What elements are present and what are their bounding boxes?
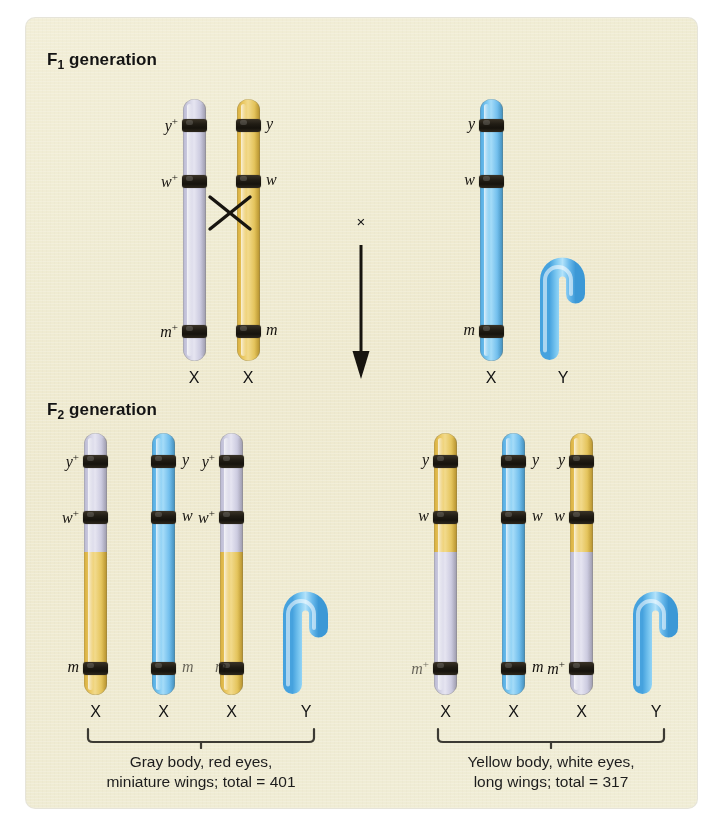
chromosome-body-top: [220, 433, 243, 552]
f2-right-chr3-label-m: m+: [547, 658, 565, 678]
chromosome-body: [183, 99, 206, 361]
f2-left-chr3-label-y: y+: [202, 451, 215, 471]
f2-right-chr1-type: X: [440, 703, 451, 721]
title-prefix: F: [47, 400, 57, 419]
allele-gene: y: [165, 117, 172, 134]
f1-female-chromosome-1[interactable]: [183, 99, 206, 361]
chromosome-band: [182, 119, 207, 132]
f2-right-chr1-label-m: m+: [411, 658, 429, 678]
chromosome-band: [219, 455, 244, 468]
f2-right-chr3-label-y: y: [558, 451, 565, 469]
allele-gene: y: [266, 115, 273, 132]
f2-left-chromosome-3[interactable]: [220, 433, 243, 695]
f1-generation-title: F1 generation: [47, 50, 157, 72]
title-prefix: F: [47, 50, 57, 69]
allele-gene: w: [418, 507, 429, 524]
chromosome-band: [236, 119, 261, 132]
chromosome-band: [151, 511, 176, 524]
allele-gene: w: [198, 509, 209, 526]
chromosome-body-top: [570, 433, 593, 552]
allele-gene: m: [215, 658, 227, 675]
allele-gene: w: [182, 507, 193, 524]
allele-gene: y: [532, 451, 539, 468]
f2-right-group-bracket: [436, 727, 666, 749]
f2-right-chromosome-1[interactable]: [434, 433, 457, 695]
allele-gene: y: [468, 115, 475, 132]
allele-superscript: +: [172, 115, 178, 127]
title-suffix: generation: [64, 50, 157, 69]
chromosome-segment: [220, 433, 243, 552]
f1-female-chr1-label-w: w+: [161, 171, 178, 191]
chromosome-band: [569, 662, 594, 675]
chromosome-band: [433, 455, 458, 468]
allele-superscript: +: [73, 451, 79, 463]
allele-gene: m: [532, 658, 544, 675]
chromosome-band: [83, 662, 108, 675]
f1-female-chr1-type: X: [189, 369, 200, 387]
chromosome-band: [479, 175, 504, 188]
f2-right-chromosome-y[interactable]: [633, 588, 679, 694]
f2-right-chromosome-3[interactable]: [570, 433, 593, 695]
chromosome-band: [236, 325, 261, 338]
f2-generation-title: F2 generation: [47, 400, 157, 422]
chromosome-band: [433, 662, 458, 675]
f2-right-chr3-label-w: w: [554, 507, 565, 525]
allele-superscript: +: [209, 451, 215, 463]
f2-left-chr2-label-y: y: [182, 451, 189, 469]
f2-left-chr3-label-w: w+: [198, 507, 215, 527]
allele-gene: y: [202, 453, 209, 470]
allele-superscript: +: [73, 507, 79, 519]
crossover-mark: [207, 193, 253, 233]
f2-left-chr1-type: X: [90, 703, 101, 721]
diagram-stage: F1 generationF2 generationy+w+m+ywmywmXX…: [26, 18, 697, 808]
f2-left-group-bracket: [86, 727, 316, 749]
figure-panel: F1 generationF2 generationy+w+m+ywmywmXX…: [26, 18, 697, 808]
f1-male-chrx-type: X: [486, 369, 497, 387]
chromosome-band: [479, 325, 504, 338]
f2-left-chr1-label-y: y+: [66, 451, 79, 471]
chromosome-segment: [570, 433, 593, 552]
allele-gene: m: [160, 323, 172, 340]
f2-left-group-caption: Gray body, red eyes, miniature wings; to…: [56, 752, 346, 793]
chromosome-band: [219, 511, 244, 524]
chromosome-band: [501, 662, 526, 675]
chromosome-band: [182, 175, 207, 188]
title-suffix: generation: [64, 400, 157, 419]
f2-right-group-caption: Yellow body, white eyes, long wings; tot…: [406, 752, 696, 793]
f2-right-chr1-label-w: w: [418, 507, 429, 525]
f2-left-chromosome-1[interactable]: [84, 433, 107, 695]
f2-left-chr1-label-m: m: [67, 658, 79, 676]
f1-female-chr2-label-m: m: [266, 321, 278, 339]
f2-left-chr2-label-w: w: [182, 507, 193, 525]
f2-right-chry-type: Y: [651, 703, 662, 721]
chromosome-band: [433, 511, 458, 524]
chromosome-band: [83, 511, 108, 524]
f1-male-chromosome-x[interactable]: [480, 99, 503, 361]
f2-left-chry-type: Y: [301, 703, 312, 721]
chromosome-band: [569, 511, 594, 524]
allele-superscript: +: [423, 658, 429, 670]
allele-gene: y: [422, 451, 429, 468]
chromosome-band: [83, 455, 108, 468]
f2-right-chr1-label-y: y: [422, 451, 429, 469]
allele-gene: w: [464, 171, 475, 188]
chromosome-band: [182, 325, 207, 338]
allele-gene: y: [66, 453, 73, 470]
f1-female-chr2-type: X: [243, 369, 254, 387]
allele-gene: y: [558, 451, 565, 468]
f2-right-chromosome-2[interactable]: [502, 433, 525, 695]
generation-arrow: [348, 245, 374, 380]
f1-male-chrx-label-w: w: [464, 171, 475, 189]
chromosome-body: [480, 99, 503, 361]
f1-male-chromosome-y[interactable]: [540, 254, 586, 360]
f2-left-chr2-label-m: m: [182, 658, 194, 676]
allele-gene: m: [266, 321, 278, 338]
f1-female-chr1-label-y: y+: [165, 115, 178, 135]
allele-gene: w: [532, 507, 543, 524]
f2-left-chr1-label-w: w+: [62, 507, 79, 527]
f2-left-chromosome-2[interactable]: [152, 433, 175, 695]
f1-male-chry-type: Y: [558, 369, 569, 387]
f2-left-chromosome-y[interactable]: [283, 588, 329, 694]
f1-female-chr2-label-w: w: [266, 171, 277, 189]
chromosome-segment: [84, 433, 107, 552]
